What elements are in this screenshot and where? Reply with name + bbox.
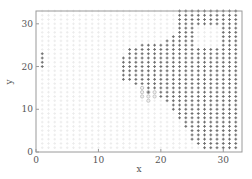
light-point-marker (85, 112, 88, 115)
light-point-marker (166, 108, 169, 111)
light-point-marker (141, 35, 144, 38)
dark-point-marker (203, 48, 206, 51)
light-point-marker (60, 52, 63, 55)
light-point-marker (116, 95, 119, 98)
light-point-marker (141, 31, 144, 34)
dark-point-marker (141, 61, 144, 64)
dark-point-marker (234, 95, 237, 98)
light-point-marker (78, 74, 81, 77)
dark-point-marker (228, 65, 231, 68)
dark-point-marker (191, 61, 194, 64)
light-point-marker (135, 142, 138, 145)
y-tick-label: 30 (22, 19, 34, 29)
dark-point-marker (172, 52, 175, 55)
dark-point-marker (197, 99, 200, 102)
light-point-marker (110, 40, 113, 43)
light-point-marker (60, 95, 63, 98)
dark-point-marker (141, 74, 144, 77)
light-point-marker (41, 138, 44, 141)
light-point-marker (91, 125, 94, 128)
dark-point-marker (159, 82, 162, 85)
dark-point-marker (166, 57, 169, 60)
dark-point-marker (197, 112, 200, 115)
dark-point-marker (191, 22, 194, 25)
dark-point-marker (203, 82, 206, 85)
dark-point-marker (203, 74, 206, 77)
dark-point-marker (228, 22, 231, 25)
light-point-marker (110, 129, 113, 132)
dark-point-marker (184, 91, 187, 94)
light-point-marker (53, 87, 56, 90)
light-point-marker (160, 40, 163, 43)
light-point-marker (122, 99, 125, 102)
light-point-marker (60, 82, 63, 85)
light-point-marker (60, 78, 63, 81)
light-point-marker (122, 48, 125, 51)
light-point-marker (47, 31, 50, 34)
light-point-marker (166, 146, 169, 149)
dark-point-marker (172, 69, 175, 72)
light-point-marker (135, 91, 138, 94)
light-point-marker (110, 142, 113, 145)
dark-point-marker (203, 65, 206, 68)
light-point-marker (72, 87, 75, 90)
dark-point-marker (159, 95, 162, 98)
light-point-marker (41, 95, 44, 98)
light-point-marker (53, 18, 56, 21)
dark-point-marker (191, 99, 194, 102)
light-point-marker (72, 35, 75, 38)
light-point-marker (60, 138, 63, 141)
dark-point-marker (228, 48, 231, 51)
light-point-marker (160, 112, 163, 115)
light-point-marker (91, 61, 94, 64)
light-point-marker (116, 91, 119, 94)
dark-point-marker (147, 78, 150, 81)
dark-point-marker (147, 52, 150, 55)
dark-point-marker (191, 95, 194, 98)
dark-point-marker (147, 48, 150, 51)
light-point-marker (60, 87, 63, 90)
light-point-marker (91, 108, 94, 111)
light-point-marker (128, 87, 131, 90)
dark-point-marker (209, 138, 212, 141)
light-point-marker (178, 134, 181, 137)
dark-point-marker (216, 99, 219, 102)
light-point-marker (178, 129, 181, 132)
light-point-marker (116, 112, 119, 115)
dark-point-marker (203, 18, 206, 21)
light-point-marker (172, 134, 175, 137)
dark-point-marker (178, 108, 181, 111)
dark-point-marker (172, 82, 175, 85)
light-point-marker (97, 65, 100, 68)
light-point-marker (160, 104, 163, 107)
light-point-marker (160, 108, 163, 111)
light-point-marker (116, 87, 119, 90)
light-point-marker (166, 134, 169, 137)
light-point-marker (116, 134, 119, 137)
light-point-marker (41, 23, 44, 26)
light-point-marker (78, 104, 81, 107)
light-point-marker (209, 44, 212, 47)
dark-point-marker (122, 65, 125, 68)
dark-point-marker (41, 61, 44, 64)
dark-point-marker (153, 52, 156, 55)
light-point-marker (41, 35, 44, 38)
dark-point-marker (191, 40, 194, 43)
light-point-marker (166, 117, 169, 120)
dark-point-marker (166, 44, 169, 47)
dark-point-marker (222, 95, 225, 98)
light-point-marker (103, 117, 106, 120)
light-point-marker (91, 121, 94, 124)
dark-point-marker (141, 69, 144, 72)
light-point-marker (147, 23, 150, 26)
dark-point-marker (216, 57, 219, 60)
light-point-marker (135, 87, 138, 90)
dark-point-marker (203, 134, 206, 137)
light-point-marker (122, 52, 125, 55)
dark-point-marker (197, 104, 200, 107)
dark-point-marker (191, 35, 194, 38)
light-point-marker (122, 27, 125, 30)
dark-point-marker (159, 91, 162, 94)
light-point-marker (103, 104, 106, 107)
light-point-marker (153, 125, 156, 128)
